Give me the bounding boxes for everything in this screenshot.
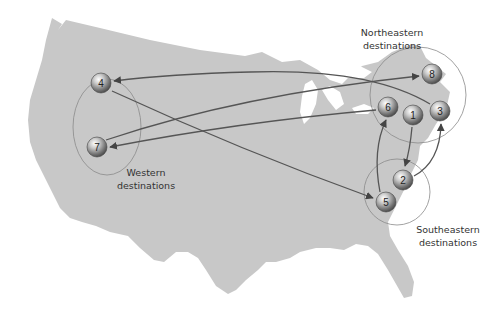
node-5: 5 xyxy=(376,192,396,212)
western-label-line2: destinations xyxy=(96,179,196,192)
svg-text:2: 2 xyxy=(400,175,406,186)
northeastern-label-line2: destinations xyxy=(342,39,442,52)
node-3: 3 xyxy=(430,101,450,121)
svg-text:1: 1 xyxy=(410,110,416,121)
svg-text:3: 3 xyxy=(437,106,443,117)
node-7: 7 xyxy=(87,137,107,157)
western-label: Western destinations xyxy=(96,166,196,192)
svg-text:7: 7 xyxy=(94,142,100,153)
node-4: 4 xyxy=(91,73,111,93)
svg-text:4: 4 xyxy=(98,78,104,89)
svg-text:6: 6 xyxy=(385,102,391,113)
southeastern-label-line1: Southeastern xyxy=(398,223,493,236)
node-8: 8 xyxy=(422,64,442,84)
svg-text:5: 5 xyxy=(383,197,389,208)
node-6: 6 xyxy=(378,97,398,117)
us-landmass xyxy=(28,18,450,298)
svg-text:8: 8 xyxy=(429,69,435,80)
western-label-line1: Western xyxy=(96,166,196,179)
southeastern-label-line2: destinations xyxy=(398,236,493,249)
northeastern-label: Northeastern destinations xyxy=(342,26,442,52)
southeastern-label: Southeastern destinations xyxy=(398,223,493,249)
node-1: 1 xyxy=(403,105,423,125)
northeastern-label-line1: Northeastern xyxy=(342,26,442,39)
node-2: 2 xyxy=(393,170,413,190)
